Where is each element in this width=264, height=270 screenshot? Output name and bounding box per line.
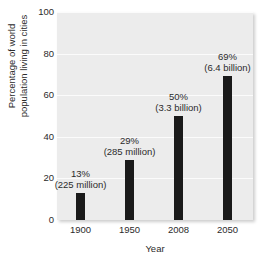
y-axis-title: Percentage of world population living in…: [6, 0, 34, 141]
bar: [76, 193, 85, 220]
gridline: [57, 12, 253, 13]
bar-annotation: 50% (3.3 billion): [137, 91, 221, 113]
bar-annotation-absolute: (225 million): [39, 179, 123, 190]
x-tick-label: 1950: [108, 224, 152, 235]
bar-annotation-absolute: (285 million): [88, 146, 172, 157]
y-axis-title-line1: Percentage of world: [6, 24, 17, 109]
x-axis-ticks: 1900 1950 2008 2050: [57, 224, 253, 238]
bar-annotation-absolute: (6.4 billion): [186, 62, 264, 73]
x-tick-label: 2050: [206, 224, 250, 235]
bar-annotation-percent: 69%: [186, 51, 264, 62]
figure: 100 80 60 40 20 0 Percentage of world po…: [0, 0, 263, 270]
bar-annotation-percent: 13%: [39, 168, 123, 179]
bar: [125, 160, 134, 220]
x-tick-label: 1900: [59, 224, 103, 235]
x-tick-label: 2008: [157, 224, 201, 235]
bar-annotation-percent: 50%: [137, 91, 221, 102]
y-axis-title-line2: population living in cities: [18, 15, 29, 117]
bar-annotation: 69% (6.4 billion): [186, 51, 264, 73]
bar: [223, 76, 232, 220]
bar-annotation: 29% (285 million): [88, 135, 172, 157]
bar: [174, 116, 183, 220]
bar-annotation-absolute: (3.3 billion): [137, 102, 221, 113]
x-axis-title: Year: [57, 243, 253, 254]
y-tick-label: 0: [28, 215, 54, 225]
bar-annotation: 13% (225 million): [39, 168, 123, 190]
bar-annotation-percent: 29%: [88, 135, 172, 146]
